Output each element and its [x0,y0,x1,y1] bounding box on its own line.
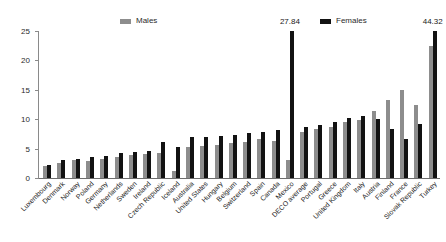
bar-group [340,31,354,178]
bar-group [297,31,311,178]
bar-group [54,31,68,178]
bar-females [104,156,108,178]
bar-females [347,118,351,178]
x-axis-labels: LuxembourgDenmarkNorwayPolandGermanyNeth… [40,179,440,241]
y-axis-tick: 0 [35,178,39,179]
bar-females [90,157,94,178]
bar-females [204,137,208,178]
bar-group [83,31,97,178]
legend-label-males: Males [136,17,157,25]
plot-area: 0510152025 27.8444.32 [38,31,440,178]
bar-group [397,31,411,178]
bar-females [361,116,365,178]
bar-series-group: 27.8444.32 [40,31,440,178]
bar-females [290,31,294,178]
bar-females [418,124,422,178]
y-axis-tick: 25 [35,31,39,32]
bar-group [254,31,268,178]
bar-group [326,31,340,178]
bar-females [176,147,180,178]
bar-group [169,31,183,178]
bar-group [311,31,325,178]
y-axis-tick-label: 20 [21,56,30,65]
bar-females [133,152,137,178]
bar-group [40,31,54,178]
bar-group [97,31,111,178]
y-axis-tick-label: 10 [21,115,30,124]
legend-item-males: Males [120,14,157,28]
bar-group [411,31,425,178]
bar-females [390,129,394,178]
bar-females [147,151,151,178]
bar-females [333,122,337,178]
legend-item-females: Females [320,14,367,28]
bar-group [111,31,125,178]
bar-group [240,31,254,178]
bar-group [354,31,368,178]
bar-females [276,130,280,178]
bar-females [261,132,265,178]
bar-group [69,31,83,178]
bar-value-annotation: 44.32 [423,17,443,26]
legend-swatch-males-icon [120,19,131,24]
bar-females [76,159,80,178]
bar-females [119,153,123,178]
bar-group [126,31,140,178]
bar-group [368,31,382,178]
y-axis-tick: 15 [35,90,39,91]
bar-group [140,31,154,178]
bar-group [269,31,283,178]
bar-females [219,136,223,178]
legend-swatch-females-icon [320,19,331,24]
bar-females [376,119,380,178]
legend-label-females: Females [336,17,367,25]
x-axis-label-slot: Turkey [426,179,440,241]
bar-value-annotation: 27.84 [280,17,300,26]
bar-group [197,31,211,178]
bar-females [433,31,437,178]
bar-group [383,31,397,178]
bar-females [404,139,408,178]
chart-container: Males Females 0510152025 27.8444.32 Luxe… [0,0,446,242]
bar-group [183,31,197,178]
y-axis-tick-label: 25 [21,27,30,36]
y-axis-tick-label: 5 [26,144,30,153]
bar-females [190,137,194,178]
bar-females [304,127,308,178]
bar-group [211,31,225,178]
bar-females [318,125,322,179]
bar-group: 44.32 [426,31,440,178]
bar-females [161,142,165,178]
y-axis-tick: 10 [35,119,39,120]
bar-females [47,165,51,178]
bar-group [154,31,168,178]
y-axis-tick: 5 [35,149,39,150]
y-axis-tick-label: 0 [26,174,30,183]
y-axis-tick: 20 [35,60,39,61]
y-axis-line [38,31,39,178]
bar-females [247,133,251,178]
bar-females [61,160,65,178]
bar-group: 27.84 [283,31,297,178]
bar-females [233,135,237,179]
y-axis-tick-label: 15 [21,85,30,94]
bar-group [226,31,240,178]
